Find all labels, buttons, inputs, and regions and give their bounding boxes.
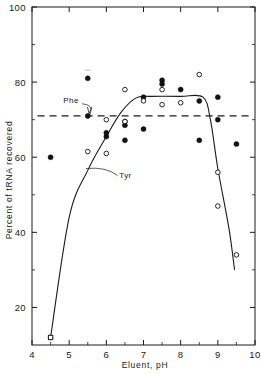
phe-series-label: Phe: [63, 96, 79, 105]
data-point-tyr: [123, 87, 128, 92]
data-points: [48, 70, 239, 340]
data-point-phe: [48, 155, 53, 160]
data-point-phe: [160, 81, 165, 86]
data-point-tyr: [178, 100, 183, 105]
x-axis-title: Eluent, pH: [122, 360, 169, 370]
data-point-phe: [215, 117, 220, 122]
data-point-phe: [234, 142, 239, 147]
x-tick-label: 6: [103, 349, 109, 360]
phe-leader-line: [82, 104, 91, 113]
axis-tick-labels: 4567891020406080100: [9, 2, 261, 361]
plot-border: [32, 7, 255, 345]
scatter-plot: 4567891020406080100 PheTyr Eluent, pH Pe…: [0, 0, 261, 374]
data-point-phe: [85, 76, 90, 81]
data-point-tyr: [234, 253, 239, 258]
data-point-phe: [215, 95, 220, 100]
y-tick-label: 60: [15, 152, 26, 163]
data-point-phe: [104, 134, 109, 139]
tyr-leader-line: [86, 168, 117, 175]
plot-frame: [32, 7, 255, 345]
axis-ticks: [32, 7, 255, 345]
data-point-tyr: [104, 117, 109, 122]
x-tick-label: 7: [141, 349, 147, 360]
x-tick-label: 9: [215, 349, 221, 360]
y-tick-label: 20: [15, 302, 26, 313]
data-point-tyr: [160, 87, 165, 92]
x-tick-label: 5: [66, 349, 72, 360]
data-point-tyr: [160, 102, 165, 107]
data-point-phe: [141, 127, 146, 132]
y-tick-label: 40: [15, 227, 26, 238]
data-point-tyr: [104, 151, 109, 156]
tyr-series-label: Tyr: [119, 171, 131, 180]
data-point-tyr: [141, 99, 146, 104]
data-point-tyr: [216, 170, 221, 175]
data-point-phe: [178, 87, 183, 92]
x-tick-label: 4: [29, 349, 35, 360]
x-tick-label: 8: [178, 349, 184, 360]
data-point-tyr: [123, 119, 128, 124]
x-tick-label: 10: [249, 349, 260, 360]
data-point-phe: [197, 98, 202, 103]
data-point-tyr-origin-square: [48, 335, 52, 339]
data-point-phe: [122, 138, 127, 143]
y-tick-label: 100: [9, 2, 26, 13]
chart-page: 4567891020406080100 PheTyr Eluent, pH Pe…: [0, 0, 261, 374]
data-point-tyr: [85, 149, 90, 154]
y-axis-title: Percent of tRNA recovered: [4, 121, 14, 240]
data-point-tyr: [197, 72, 202, 77]
data-point-tyr: [216, 204, 221, 209]
y-tick-label: 80: [15, 77, 26, 88]
data-point-phe: [197, 138, 202, 143]
series-annotations: PheTyr: [63, 96, 131, 180]
